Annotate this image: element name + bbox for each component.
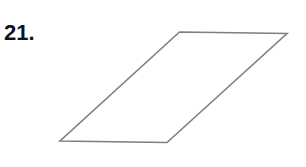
parallelogram-figure [0,0,306,167]
parallelogram-shape [60,32,287,143]
